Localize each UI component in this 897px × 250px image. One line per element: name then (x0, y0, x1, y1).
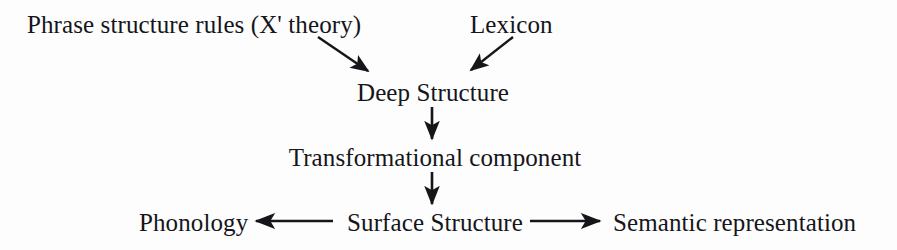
node-transformational-component: Transformational component (289, 145, 582, 170)
node-semantic-representation: Semantic representation (613, 210, 856, 235)
node-phonology: Phonology (139, 210, 248, 235)
node-surface-structure: Surface Structure (347, 210, 523, 235)
node-phrase-structure-rules: Phrase structure rules (X' theory) (27, 12, 361, 37)
arrow-lexicon-to-deep-structure (471, 37, 513, 70)
node-lexicon: Lexicon (470, 12, 553, 37)
node-deep-structure: Deep Structure (357, 80, 509, 105)
transformational-grammar-diagram: Phrase structure rules (X' theory) Lexic… (0, 0, 897, 250)
arrow-phrase-structure-to-deep-structure (318, 37, 368, 71)
